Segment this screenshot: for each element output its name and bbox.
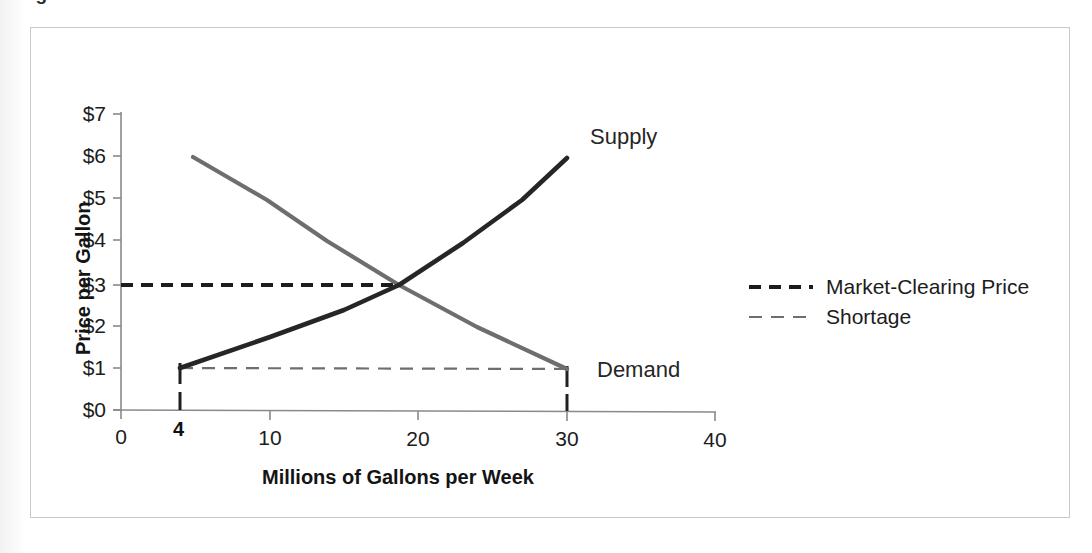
y-axis-title: Price per Gallon (72, 202, 95, 355)
legend-item-market-clearing-price: Market-Clearing Price (748, 272, 1058, 302)
y-tick-label-1: $1 (46, 356, 106, 380)
shortage-dashed-line (180, 368, 567, 369)
y-tick-label-0: $0 (46, 398, 106, 422)
x-tick-label-20: 20 (388, 427, 448, 451)
y-tick-label-6: $6 (46, 144, 106, 168)
y-tick-label-7: $7 (46, 102, 106, 126)
chart-legend: Market-Clearing Price Shortage (748, 272, 1058, 332)
demand-curve (193, 157, 567, 369)
chart-screenshot: Figure Gasoline Market (0, 0, 1092, 553)
supply-curve (180, 158, 567, 368)
x-axis-line (113, 410, 716, 412)
x-tick-label-10: 10 (240, 426, 300, 450)
x-axis-title: Millions of Gallons per Week (262, 466, 534, 489)
quantity-supplied-marker-label: 4 (173, 418, 184, 441)
demand-series-label: Demand (597, 357, 680, 383)
legend-item-shortage: Shortage (748, 302, 1058, 332)
legend-label-market-clearing-price: Market-Clearing Price (826, 275, 1029, 299)
legend-label-shortage: Shortage (826, 305, 911, 329)
x-tick-label-30: 30 (537, 427, 597, 451)
y-axis-ticks (113, 114, 121, 410)
supply-series-label: Supply (590, 124, 657, 150)
x-tick-label-40: 40 (685, 428, 745, 452)
legend-swatch-dashed-thin (748, 310, 814, 324)
plot-area: $7 $6 $5 $4 $3 $2 $1 $0 0 10 20 30 40 4 … (0, 0, 1092, 553)
x-tick-label-0: 0 (91, 425, 151, 449)
legend-swatch-dashed-thick (748, 280, 814, 294)
